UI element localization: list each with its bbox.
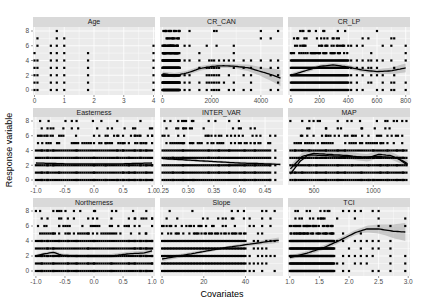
panels-group: Age0123402468CR_CAN020004000CR_LP0200400… bbox=[25, 17, 413, 285]
y-tick-label: 6 bbox=[25, 222, 29, 229]
facet-cr-lp: CR_LP0200400600800 bbox=[288, 17, 411, 104]
x-tick-label: -0.5 bbox=[59, 187, 71, 194]
strip-label: Slope bbox=[213, 199, 231, 207]
y-tick-label: 0 bbox=[25, 176, 29, 183]
x-tick-label: 2.0 bbox=[344, 278, 353, 285]
y-tick-label: 4 bbox=[25, 237, 29, 244]
x-tick-label: 0.30 bbox=[182, 187, 195, 194]
x-tick-label: -0.5 bbox=[59, 278, 71, 285]
facet-tci: TCI1.01.52.02.53.0 bbox=[285, 198, 413, 285]
y-tick-label: 8 bbox=[25, 207, 29, 214]
y-tick-label: 0 bbox=[25, 86, 29, 93]
y-tick-label: 2 bbox=[25, 72, 29, 79]
y-tick-label: 6 bbox=[25, 42, 29, 49]
x-tick-label: 800 bbox=[400, 97, 411, 104]
x-tick-label: 0.45 bbox=[259, 187, 272, 194]
x-tick-label: 3 bbox=[122, 97, 126, 104]
strip-label: MAP bbox=[341, 109, 357, 116]
strip-label: Northerness bbox=[75, 199, 114, 206]
x-tick-label: 3.0 bbox=[404, 278, 413, 285]
facet-map: MAP5001000 bbox=[288, 108, 410, 194]
faceted-scatter-chart: Age0123402468CR_CAN020004000CR_LP0200400… bbox=[0, 0, 429, 303]
y-tick-label: 6 bbox=[25, 132, 29, 139]
y-tick-label: 4 bbox=[25, 147, 29, 154]
x-tick-label: 400 bbox=[343, 97, 354, 104]
facet-age: Age0123402468 bbox=[25, 17, 155, 104]
y-tick-label: 0 bbox=[25, 267, 29, 274]
x-tick-label: 0.5 bbox=[119, 278, 128, 285]
facet-easterness: Easterness-1.0-0.50.00.51.002468 bbox=[25, 108, 157, 194]
x-tick-label: 4 bbox=[152, 97, 156, 104]
x-tick-label: 0.5 bbox=[119, 187, 128, 194]
x-tick-label: 1.5 bbox=[315, 278, 324, 285]
strip-label: INTER_VAR bbox=[202, 109, 241, 117]
y-tick-label: 2 bbox=[25, 162, 29, 169]
x-tick-label: 200 bbox=[314, 97, 325, 104]
x-tick-label: 0.40 bbox=[233, 187, 246, 194]
y-tick-label: 4 bbox=[25, 57, 29, 64]
x-tick-label: 0 bbox=[289, 97, 293, 104]
x-tick-label: 2 bbox=[92, 97, 96, 104]
facet-inter-var: INTER_VAR0.250.300.350.400.45 bbox=[156, 108, 283, 194]
y-tick-label: 2 bbox=[25, 252, 29, 259]
x-tick-label: 0.0 bbox=[89, 278, 98, 285]
x-tick-label: 2000 bbox=[204, 97, 219, 104]
x-axis-title: Covariates bbox=[200, 289, 244, 299]
x-tick-label: 2.5 bbox=[374, 278, 383, 285]
x-tick-label: 1 bbox=[62, 97, 66, 104]
x-tick-label: -1.0 bbox=[30, 187, 42, 194]
strip-label: Age bbox=[88, 18, 101, 26]
x-tick-label: 0.0 bbox=[89, 187, 98, 194]
x-tick-label: 20 bbox=[200, 278, 208, 285]
x-tick-label: 0 bbox=[161, 97, 165, 104]
y-axis-title: Response variable bbox=[4, 113, 14, 188]
x-tick-label: 1000 bbox=[366, 187, 381, 194]
x-tick-label: 0.35 bbox=[207, 187, 220, 194]
x-tick-label: 600 bbox=[372, 97, 383, 104]
x-tick-label: 1.0 bbox=[148, 278, 157, 285]
x-tick-label: 500 bbox=[309, 187, 320, 194]
x-tick-label: 0 bbox=[33, 97, 37, 104]
facet-slope: Slope02040 bbox=[160, 198, 283, 285]
x-tick-label: 40 bbox=[242, 278, 250, 285]
strip-label: CR_LP bbox=[338, 18, 361, 26]
facet-cr-can: CR_CAN020004000 bbox=[160, 17, 283, 104]
x-tick-label: 0.25 bbox=[156, 187, 169, 194]
y-tick-label: 8 bbox=[25, 27, 29, 34]
y-tick-label: 8 bbox=[25, 117, 29, 124]
x-tick-label: 0 bbox=[160, 278, 164, 285]
strip-label: CR_CAN bbox=[207, 18, 236, 26]
facet-northerness: Northerness-1.0-0.50.00.51.002468 bbox=[25, 198, 157, 285]
x-tick-label: 1.0 bbox=[285, 278, 294, 285]
strip-label: TCI bbox=[343, 199, 354, 206]
strip-label: Easterness bbox=[76, 109, 112, 116]
x-tick-label: -1.0 bbox=[30, 278, 42, 285]
x-tick-label: 4000 bbox=[254, 97, 269, 104]
